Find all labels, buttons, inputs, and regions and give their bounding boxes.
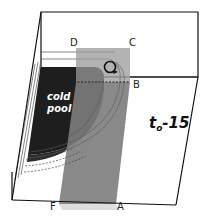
time-label: to-15 [149, 114, 189, 133]
label-b: B [133, 79, 140, 90]
label-a: A [117, 201, 124, 212]
vertical-plane-top [76, 48, 130, 82]
label-c: C [129, 37, 136, 48]
label-d: D [70, 37, 78, 48]
label-e: E [70, 77, 76, 88]
cold-pool-label-line1: cold [47, 91, 71, 102]
cold-pool-label-line2: pool [46, 103, 72, 114]
label-f: F [50, 201, 56, 212]
time-label-suffix: -15 [162, 114, 189, 132]
diagram-canvas: D C B E F A cold pool to-15 [0, 0, 209, 217]
vertical-plane-shadow [59, 204, 119, 210]
